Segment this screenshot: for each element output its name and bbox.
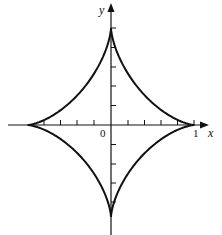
y-axis-arrow-icon xyxy=(108,3,115,12)
x-axis-label: x xyxy=(207,126,214,140)
y-axis-label: y xyxy=(98,3,105,17)
x-tick-label-one: 1 xyxy=(193,127,199,139)
origin-label: 0 xyxy=(100,127,106,139)
y-ticks xyxy=(111,28,116,202)
x-ticks xyxy=(44,120,194,125)
astroid-diagram: y x 0 1 xyxy=(0,0,222,235)
